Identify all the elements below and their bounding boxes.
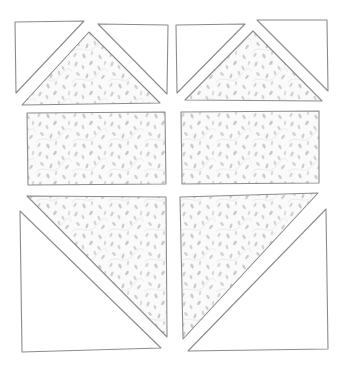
top-row	[15, 20, 328, 105]
flying-geese-left	[15, 21, 168, 105]
half-square-triangle-right	[180, 193, 328, 351]
flying-geese-right	[176, 20, 328, 101]
quilt-block-diagram: Quilt block layout (unsewn pieces)	[0, 0, 347, 375]
fabric-rectangle-right	[181, 111, 319, 184]
quilt-block-svg	[0, 0, 347, 375]
bottom-row	[20, 193, 328, 352]
fabric-rectangle-left	[27, 112, 166, 185]
middle-row	[27, 111, 319, 185]
half-square-triangle-left	[20, 196, 167, 352]
